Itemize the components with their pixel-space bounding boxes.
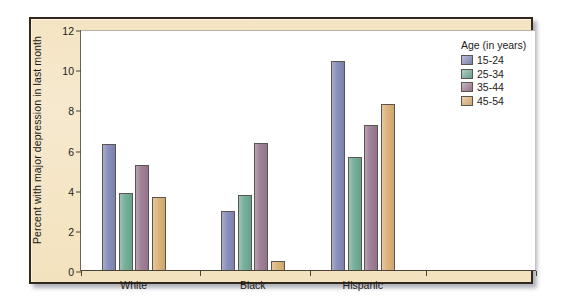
y-tick-label: 0	[34, 267, 74, 278]
x-tick-mark	[81, 271, 82, 276]
y-axis-title: Percent with major depression in last mo…	[30, 19, 44, 260]
plot-area: 024681012 WhiteBlackHispanic Age (in yea…	[80, 30, 535, 271]
bar-sheen	[365, 126, 377, 270]
bar-sheen	[153, 198, 165, 270]
legend-item: 25-34	[461, 68, 526, 80]
legend-swatch-sheen	[462, 83, 472, 91]
x-group-label: White	[120, 279, 147, 291]
legend-item: 15-24	[461, 54, 526, 66]
legend-swatch-sheen	[462, 97, 472, 105]
x-group-label: Hispanic	[343, 279, 383, 291]
legend-swatch	[461, 55, 473, 65]
y-tick-mark	[76, 111, 81, 112]
bar	[364, 125, 378, 271]
y-tick-label: 8	[34, 106, 74, 117]
bar	[254, 143, 268, 271]
y-tick-label: 2	[34, 227, 74, 238]
x-tick-mark	[200, 271, 201, 276]
legend-swatch	[461, 69, 473, 79]
legend-swatch	[461, 82, 473, 92]
bar-sheen	[349, 158, 361, 270]
y-tick-mark	[76, 231, 81, 232]
bar-sheen	[255, 144, 267, 270]
bar	[348, 157, 362, 271]
bar	[381, 104, 395, 271]
x-tick-mark	[536, 271, 537, 276]
legend-title: Age (in years)	[461, 39, 526, 51]
bar-sheen	[332, 62, 344, 270]
bar-sheen	[239, 196, 251, 270]
bar	[135, 165, 149, 271]
y-tick-mark	[76, 71, 81, 72]
legend-swatch-sheen	[462, 70, 472, 78]
bar	[102, 144, 116, 271]
y-tick-label: 6	[34, 146, 74, 157]
y-tick-label: 12	[34, 26, 74, 37]
x-axis-line	[81, 270, 536, 271]
legend-items: 15-2425-3435-4445-54	[461, 54, 526, 107]
bar	[331, 61, 345, 271]
bar-sheen	[382, 105, 394, 270]
legend-label: 25-34	[477, 68, 504, 80]
legend-item: 35-44	[461, 81, 526, 93]
x-group-label: Black	[240, 279, 266, 291]
bar-sheen	[222, 212, 234, 270]
chart-legend: Age (in years) 15-2425-3435-4445-54	[461, 39, 526, 108]
bar	[221, 211, 235, 271]
x-tick-mark	[310, 271, 311, 276]
bar	[119, 193, 133, 271]
bar	[152, 197, 166, 271]
legend-label: 15-24	[477, 54, 504, 66]
bar	[238, 195, 252, 271]
y-tick-label: 4	[34, 186, 74, 197]
y-tick-mark	[76, 151, 81, 152]
x-tick-mark	[426, 271, 427, 276]
y-tick-label: 10	[34, 66, 74, 77]
legend-swatch-sheen	[462, 56, 472, 64]
y-tick-mark	[76, 191, 81, 192]
legend-item: 45-54	[461, 95, 526, 107]
y-tick-mark	[76, 31, 81, 32]
bar-sheen	[103, 145, 115, 270]
bar-sheen	[120, 194, 132, 270]
chart-panel: Percent with major depression in last mo…	[29, 17, 533, 284]
bar-sheen	[272, 262, 284, 270]
legend-label: 35-44	[477, 81, 504, 93]
bar-sheen	[136, 166, 148, 270]
plot-inner: 024681012 WhiteBlackHispanic Age (in yea…	[81, 31, 535, 271]
legend-label: 45-54	[477, 95, 504, 107]
legend-swatch	[461, 96, 473, 106]
